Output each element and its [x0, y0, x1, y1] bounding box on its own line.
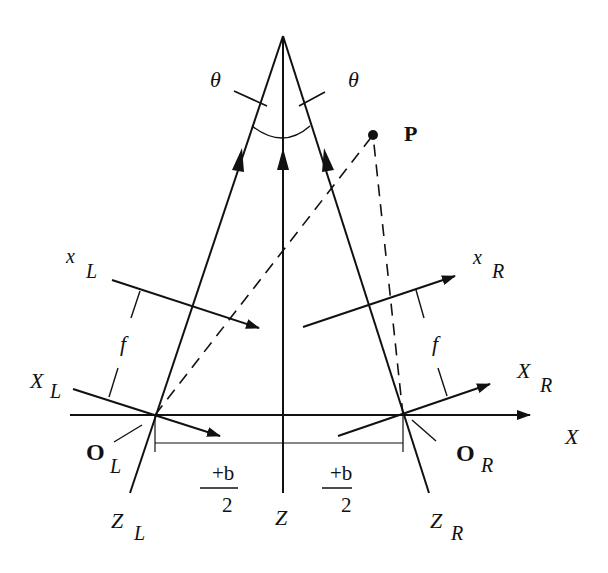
- ray-left-to-p: [155, 135, 373, 415]
- theta-arc: [252, 126, 310, 138]
- x-left-label: x: [65, 245, 75, 267]
- half-baseline-right-den: 2: [341, 493, 352, 517]
- x-right-sub: R: [491, 260, 504, 282]
- o-right-label: O: [456, 440, 475, 466]
- half-baseline-right-num: +b: [330, 461, 352, 485]
- o-right-leader: [412, 420, 436, 441]
- f-right-tick-top: [416, 290, 424, 318]
- left-optical-axis: [130, 36, 283, 493]
- f-right-label: f: [432, 331, 441, 356]
- o-left-label: O: [86, 439, 105, 465]
- ray-right-to-p: [373, 135, 403, 415]
- f-left-tick-bottom: [109, 368, 118, 397]
- half-baseline-left-num: +b: [212, 461, 234, 485]
- stereo-geometry-diagram: θ θ P x L x R f f X L X R O L O R X Z Z …: [0, 0, 608, 573]
- right-camera-x-axis: [338, 384, 490, 436]
- world-z-axis-label: Z: [275, 505, 288, 530]
- world-x-axis-label: X: [564, 424, 580, 449]
- right-axis-arrow-icon: [322, 148, 334, 172]
- x-left-sub: L: [85, 260, 97, 282]
- X-left-sub: L: [49, 380, 61, 402]
- f-left-label: f: [120, 331, 129, 356]
- left-camera-x-axis: [73, 389, 220, 436]
- theta-left-label: θ: [210, 67, 221, 92]
- f-left-tick-top: [131, 291, 140, 318]
- z-right-label: Z: [430, 508, 443, 533]
- point-p-label: P: [404, 121, 417, 146]
- o-right-sub: R: [480, 454, 493, 476]
- right-image-plane-axis: [303, 276, 455, 327]
- X-right-label: X: [516, 358, 532, 383]
- point-p-marker: [368, 130, 378, 140]
- half-baseline-left-den: 2: [222, 493, 233, 517]
- f-right-tick-bottom: [438, 368, 447, 396]
- right-optical-axis: [283, 36, 429, 493]
- z-left-sub: L: [133, 522, 145, 544]
- o-left-leader: [114, 425, 142, 442]
- left-axis-arrow-icon: [232, 148, 244, 172]
- X-right-sub: R: [539, 374, 552, 396]
- o-left-sub: L: [109, 455, 121, 477]
- X-left-label: X: [29, 368, 45, 393]
- theta-right-label: θ: [348, 67, 359, 92]
- x-right-label: x: [472, 246, 482, 268]
- z-left-label: Z: [111, 508, 124, 533]
- z-right-sub: R: [450, 522, 463, 544]
- z-axis-arrow-icon: [277, 148, 289, 170]
- left-image-plane-axis: [112, 280, 259, 328]
